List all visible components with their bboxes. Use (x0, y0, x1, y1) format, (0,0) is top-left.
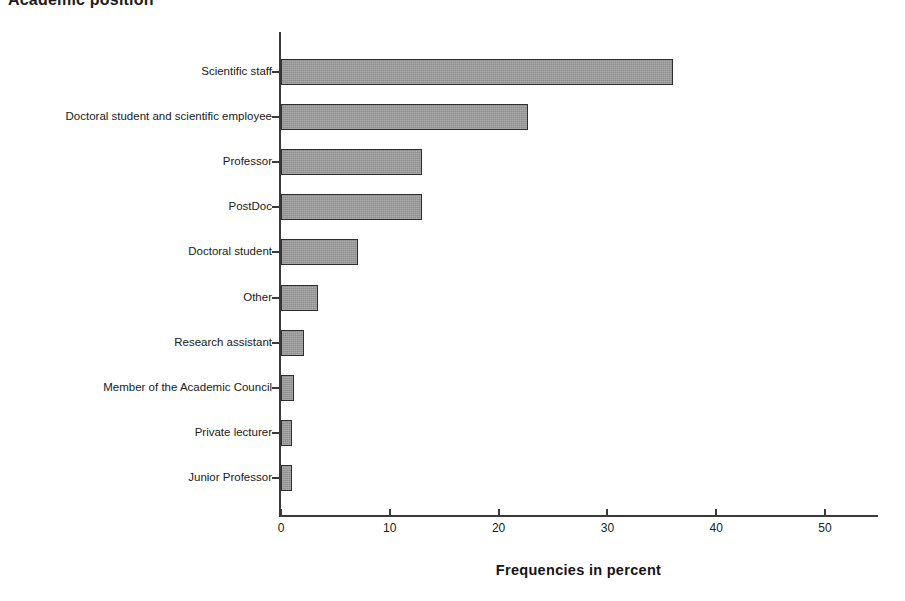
bar-row (281, 285, 318, 311)
x-tick-label: 40 (710, 521, 723, 535)
y-tick-mark (272, 342, 280, 344)
x-tick-label: 20 (492, 521, 505, 535)
bar (281, 239, 358, 265)
y-tick-label: Member of the Academic Council (103, 382, 272, 394)
y-tick-mark (272, 251, 280, 253)
bar (281, 465, 292, 491)
y-tick-label: Scientific staff (201, 66, 272, 78)
bar (281, 285, 318, 311)
bar (281, 420, 292, 446)
x-tick-label: 10 (383, 521, 396, 535)
bar-row (281, 465, 292, 491)
x-tick-label: 0 (278, 521, 285, 535)
bar-row (281, 420, 292, 446)
y-tick-mark (272, 116, 280, 118)
x-tick-mark (280, 509, 282, 517)
x-tick-mark (498, 509, 500, 517)
bar (281, 104, 528, 130)
bar (281, 149, 422, 175)
y-tick-mark (272, 387, 280, 389)
y-tick-label: Junior Professor (188, 472, 272, 484)
y-tick: Doctoral student and scientific employee (0, 110, 272, 124)
y-tick-label: Research assistant (174, 337, 272, 349)
y-tick-label: PostDoc (229, 201, 272, 213)
y-tick-mark (272, 161, 280, 163)
y-tick: Member of the Academic Council (0, 381, 272, 395)
y-tick: Doctoral student (0, 245, 272, 259)
y-tick: Research assistant (0, 336, 272, 350)
bar-row (281, 59, 673, 85)
y-tick-mark (272, 432, 280, 434)
y-tick-label: Other (243, 292, 272, 304)
bar-row (281, 194, 422, 220)
bar (281, 330, 304, 356)
x-tick-mark (715, 509, 717, 517)
y-tick-mark (272, 206, 280, 208)
chart-plot-area: Scientific staffDoctoral student and sci… (0, 0, 905, 601)
bar-row (281, 239, 358, 265)
x-tick-label: 30 (601, 521, 614, 535)
y-tick-mark (272, 297, 280, 299)
y-tick: Junior Professor (0, 471, 272, 485)
y-tick-mark (272, 71, 280, 73)
bar-row (281, 330, 304, 356)
y-tick-label: Professor (223, 156, 272, 168)
x-tick-mark (606, 509, 608, 517)
y-tick: Private lecturer (0, 426, 272, 440)
y-tick-label: Doctoral student and scientific employee (66, 111, 272, 123)
x-axis-title: Frequencies in percent (279, 562, 878, 578)
y-tick: PostDoc (0, 200, 272, 214)
y-tick: Scientific staff (0, 65, 272, 79)
y-tick-mark (272, 477, 280, 479)
y-tick-label: Private lecturer (195, 427, 272, 439)
bar (281, 375, 294, 401)
bar (281, 59, 673, 85)
x-tick-label: 50 (818, 521, 831, 535)
bar-row (281, 149, 422, 175)
bar-row (281, 104, 528, 130)
y-tick: Professor (0, 155, 272, 169)
y-tick: Other (0, 291, 272, 305)
bar-row (281, 375, 294, 401)
y-tick-label: Doctoral student (188, 246, 272, 258)
bar (281, 194, 422, 220)
x-axis-line (279, 515, 878, 517)
x-tick-mark (824, 509, 826, 517)
x-tick-mark (389, 509, 391, 517)
